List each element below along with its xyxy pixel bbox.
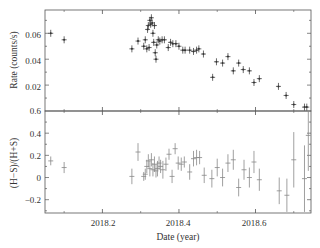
rate-data-point — [202, 53, 204, 55]
xtick-2018-2: 2018.2 — [91, 218, 116, 228]
top-ytick-0-04: 0.04 — [25, 56, 41, 66]
rate-data-point — [227, 56, 229, 58]
rate-data-point — [159, 40, 161, 42]
x-axis-title: Date (year) — [157, 232, 200, 243]
rate-data-point — [147, 25, 149, 27]
rate-data-point — [285, 94, 287, 96]
bottom-ytick-0-2: 0.2 — [30, 151, 41, 161]
rate-data-point — [50, 32, 52, 34]
bottom-y-axis-title: (H−S)/(H+S) — [9, 138, 20, 188]
rate-data-point — [253, 82, 255, 84]
chart-svg: 0.06 0.04 0.02 0.6 0.4 0.2 0 −0.2 2018.2… — [0, 0, 320, 248]
bottom-ytick-0-4: 0.4 — [30, 129, 42, 139]
rate-data-point — [63, 39, 65, 41]
bottom-panel-points — [48, 111, 311, 212]
rate-data-point — [148, 47, 150, 49]
rate-data-point — [242, 69, 244, 71]
rate-data-point — [156, 44, 158, 46]
rate-data-point — [178, 45, 180, 47]
rate-data-point — [150, 23, 152, 25]
rate-data-point — [154, 52, 156, 54]
rate-data-point — [306, 106, 308, 108]
rate-data-point — [258, 78, 260, 80]
rate-data-point — [152, 32, 154, 34]
xtick-2018-4: 2018.4 — [166, 218, 191, 228]
bottom-ytick-0: 0 — [37, 173, 42, 183]
rate-data-point — [212, 76, 214, 78]
rate-data-point — [232, 70, 234, 72]
rate-data-point — [222, 62, 224, 64]
rate-data-point — [189, 49, 191, 51]
rate-data-point — [163, 39, 165, 41]
rate-data-point — [153, 25, 155, 27]
top-y-axis-title: Rate (counts/s) — [9, 31, 20, 88]
rate-data-point — [167, 47, 169, 49]
rate-data-point — [248, 70, 250, 72]
rate-data-point — [155, 58, 157, 60]
rate-data-point — [184, 49, 186, 51]
rate-data-point — [144, 39, 146, 41]
xtick-2018-6: 2018.6 — [242, 218, 267, 228]
rate-data-point — [277, 85, 279, 87]
rate-data-point — [175, 43, 177, 45]
rate-data-point — [150, 17, 152, 19]
light-curve-figure: 0.06 0.04 0.02 0.6 0.4 0.2 0 −0.2 2018.2… — [0, 0, 320, 248]
rate-data-point — [215, 61, 217, 63]
rate-data-point — [293, 104, 295, 106]
rate-data-point — [196, 49, 198, 51]
rate-data-point — [137, 40, 139, 42]
rate-data-point — [198, 48, 200, 50]
top-ytick-0-06: 0.06 — [25, 30, 41, 40]
rate-data-point — [153, 41, 155, 43]
axis-ticks — [45, 10, 311, 213]
rate-data-point — [131, 48, 133, 50]
top-panel-frame — [45, 10, 311, 111]
rate-data-point — [157, 39, 159, 41]
rate-data-point — [143, 45, 145, 47]
rate-data-point — [151, 22, 153, 24]
top-ytick-0-02: 0.02 — [25, 82, 41, 92]
top-panel-points — [48, 14, 309, 110]
rate-data-point — [170, 41, 172, 43]
bottom-ytick-0-6: 0.6 — [30, 106, 42, 116]
bottom-ytick-neg-0-2: −0.2 — [25, 195, 41, 205]
rate-data-point — [193, 50, 195, 52]
rate-data-point — [146, 48, 148, 50]
rate-data-point — [238, 62, 240, 64]
